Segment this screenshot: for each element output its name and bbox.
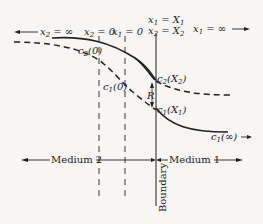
label-R: R bbox=[146, 90, 155, 101]
label-medium-2: Medium 2 bbox=[51, 154, 102, 165]
r-arrow-head-bottom bbox=[150, 102, 154, 108]
boundary-arrow-right bbox=[156, 158, 161, 162]
svg-text:x1 = 0: x1 = 0 bbox=[112, 26, 144, 39]
label-c1-infinity: c1(∞) bbox=[211, 131, 252, 144]
label-c2-0: c2(0) bbox=[78, 45, 102, 58]
boundary-arrow-left bbox=[151, 158, 156, 162]
c1-solid-curve-upper bbox=[135, 58, 155, 80]
svg-text:c2(X2): c2(X2) bbox=[157, 73, 187, 86]
svg-text:x2 = X2: x2 = X2 bbox=[148, 25, 185, 38]
svg-text:c1(∞): c1(∞) bbox=[211, 131, 237, 144]
medium1-arrow-right bbox=[236, 158, 243, 162]
label-x2-X2: x2 = X2 bbox=[148, 25, 185, 38]
svg-text:R: R bbox=[146, 90, 155, 101]
label-boundary: Boundary bbox=[157, 163, 168, 212]
svg-text:c1(0): c1(0) bbox=[103, 81, 127, 94]
medium2-arrow-left bbox=[21, 158, 28, 162]
label-x1-zero: x1 = 0 bbox=[112, 26, 144, 39]
label-c1-0: c1(0) bbox=[103, 81, 127, 94]
svg-text:x1 = ∞: x1 = ∞ bbox=[193, 23, 226, 36]
label-c2-X2: c2(X2) bbox=[157, 73, 187, 86]
svg-text:c2(0): c2(0) bbox=[78, 45, 102, 58]
r-arrow-head-top bbox=[150, 82, 154, 88]
label-x1-infinity: x1 = ∞ bbox=[193, 23, 250, 36]
label-medium-1: Medium 1 bbox=[169, 154, 220, 165]
concentration-profile-diagram: x2 = ∞ x2 = 0 x1 = 0 x1 = X1 x2 = X2 x1 … bbox=[0, 0, 263, 224]
